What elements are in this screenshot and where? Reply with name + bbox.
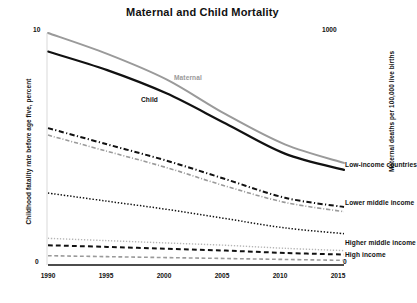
series-line: [48, 256, 344, 261]
series-lines-layer: [48, 33, 344, 260]
series-line: [48, 245, 344, 254]
series-line: [48, 193, 344, 234]
series-line: [48, 52, 344, 170]
series-line: [48, 128, 344, 207]
series-line: [48, 33, 344, 163]
